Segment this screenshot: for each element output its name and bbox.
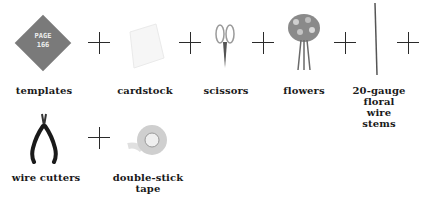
scissors-icon xyxy=(212,22,240,70)
wire-cutters-icon xyxy=(28,112,62,164)
tape-roll-icon xyxy=(126,122,170,160)
floral-wire-icon xyxy=(370,2,382,76)
flowers-bouquet-icon xyxy=(286,12,322,72)
badge-page-label: PAGE xyxy=(15,32,71,41)
supply-label: flowers xyxy=(274,85,334,96)
supply-label: double-stick tape xyxy=(110,172,186,194)
plus-icon xyxy=(397,32,419,54)
plus-icon xyxy=(252,32,274,54)
supply-label: 20-gauge floral wire stems xyxy=(352,85,406,129)
supply-label: scissors xyxy=(196,85,256,96)
plus-icon xyxy=(88,127,110,149)
cardstock-icon xyxy=(120,18,168,70)
plus-icon xyxy=(88,32,110,54)
supply-label: cardstock xyxy=(110,85,180,96)
page-reference-badge: PAGE166 xyxy=(15,15,71,71)
supply-label: wire cutters xyxy=(8,172,84,183)
badge-page-number: 166 xyxy=(15,41,71,50)
plus-icon xyxy=(179,32,201,54)
supply-label: templates xyxy=(10,85,78,96)
plus-icon xyxy=(334,32,356,54)
